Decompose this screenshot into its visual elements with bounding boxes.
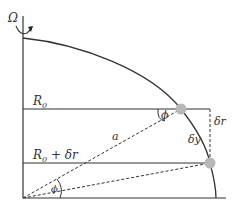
r0-dr-label: R0 + δr <box>32 148 79 164</box>
dr-label: δr <box>214 115 227 128</box>
diagram-canvas: Ω R0 R0 + δr ϕ ϕ a δr δy <box>0 0 234 211</box>
r0-label: R0 <box>32 94 47 110</box>
a-label: a <box>112 130 119 143</box>
dy-label: δy <box>188 133 202 146</box>
upper-particle <box>176 104 187 115</box>
phi-upper-label: ϕ <box>161 109 169 122</box>
lower-particle <box>205 158 216 169</box>
surface-arc <box>23 38 216 198</box>
omega-label: Ω <box>7 11 18 25</box>
phi-lower-label: ϕ <box>51 183 58 194</box>
